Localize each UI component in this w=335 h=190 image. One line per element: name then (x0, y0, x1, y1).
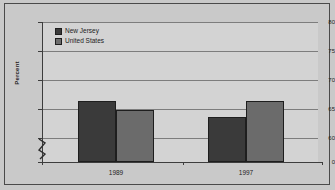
gridline-75 (42, 51, 318, 52)
x-tick-mark-1997 (322, 162, 323, 165)
bar-united-states-1989 (116, 110, 154, 162)
x-tick-mark-1989 (42, 162, 43, 165)
legend-swatch-new-jersey (55, 28, 62, 35)
legend-label-united-states: United States (65, 37, 104, 45)
bar-united-states-1997 (246, 101, 284, 162)
y-tick-label-80: 80 (301, 19, 335, 25)
y-tick-label-65: 65 (301, 106, 335, 112)
y-tick-label-0: 0 (301, 159, 335, 165)
y-tick-label-60: 60 (301, 135, 335, 141)
y-tick-label-75: 75 (301, 48, 335, 54)
gridline-70 (42, 80, 318, 81)
y-axis-title: Percent (14, 50, 20, 96)
y-tick-mark-80 (38, 22, 43, 23)
x-tick-label-1989: 1989 (96, 169, 136, 176)
x-tick-label-1997: 1997 (226, 169, 266, 176)
gridline-80 (42, 22, 318, 23)
chart-legend: New Jersey United States (55, 27, 104, 45)
legend-label-new-jersey: New Jersey (65, 27, 99, 35)
legend-swatch-united-states (55, 38, 62, 45)
bar-new-jersey-1989 (78, 101, 116, 162)
legend-item-united-states: United States (55, 37, 104, 45)
y-tick-mark-70 (38, 80, 43, 81)
chart-figure: 80 75 70 65 60 0 Percent 1989 1997 New J… (0, 0, 335, 190)
bar-new-jersey-1997 (208, 117, 246, 162)
y-tick-mark-65 (38, 109, 43, 110)
y-tick-label-70: 70 (301, 77, 335, 83)
x-tick-mark-mid (183, 162, 184, 165)
axis-break-zigzag-icon (34, 137, 50, 161)
legend-item-new-jersey: New Jersey (55, 27, 104, 35)
y-tick-mark-75 (38, 51, 43, 52)
